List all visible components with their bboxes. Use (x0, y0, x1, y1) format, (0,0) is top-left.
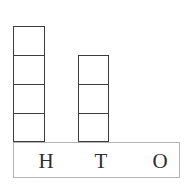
unit-block[interactable] (13, 113, 45, 142)
unit-block[interactable] (78, 84, 109, 113)
place-label-ones: O (136, 143, 184, 179)
unit-block[interactable] (13, 84, 45, 113)
place-value-base-bar: H T O (13, 142, 180, 178)
place-value-chart: H T O (0, 0, 192, 188)
block-column-hundreds[interactable] (13, 26, 45, 142)
place-label-tens: T (77, 143, 125, 179)
unit-block[interactable] (78, 113, 109, 142)
place-label-hundreds: H (22, 143, 70, 179)
unit-block[interactable] (78, 55, 109, 84)
unit-block[interactable] (13, 55, 45, 84)
unit-block[interactable] (13, 26, 45, 55)
block-column-tens[interactable] (78, 55, 109, 142)
